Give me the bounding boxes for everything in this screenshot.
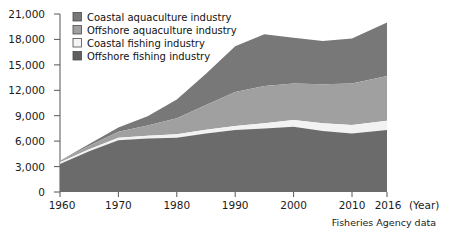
x-axis xyxy=(60,192,387,197)
x-axis-unit-label: (Year) xyxy=(409,199,439,211)
legend-item-offshore-aquaculture: Offshore aquaculture industry xyxy=(73,25,237,36)
y-tick-label: 0 xyxy=(38,186,45,198)
y-tick-label: 21,000 xyxy=(8,8,45,20)
y-axis-labels: 21,000 18,000 15,000 12,000 9,000 6,000 … xyxy=(8,8,45,198)
legend-item-coastal-aquaculture: Coastal aquaculture industry xyxy=(73,12,232,23)
legend-label: Coastal aquaculture industry xyxy=(87,12,232,23)
source-note: Fisheries Agency data xyxy=(332,217,436,228)
x-tick-label: 1960 xyxy=(49,199,76,211)
legend-item-offshore-fishing: Offshore fishing industry xyxy=(73,51,210,62)
chart-container: 21,000 18,000 15,000 12,000 9,000 6,000 … xyxy=(0,0,449,233)
y-axis xyxy=(54,14,60,192)
legend-label: Offshore fishing industry xyxy=(87,51,210,62)
x-tick-label: 1990 xyxy=(222,199,249,211)
legend-swatch xyxy=(73,26,82,35)
x-tick-label: 2016 xyxy=(375,199,402,211)
legend-swatch xyxy=(73,39,82,48)
legend-swatch xyxy=(73,13,82,22)
x-axis-labels: 1960 1970 1980 1990 2000 2010 2016 (Year… xyxy=(49,199,440,211)
y-tick-label: 18,000 xyxy=(8,33,45,45)
x-tick-label: 1970 xyxy=(105,199,132,211)
x-tick-label: 2010 xyxy=(339,199,366,211)
legend-swatch xyxy=(73,52,82,61)
legend-label: Offshore aquaculture industry xyxy=(87,25,237,36)
stacked-area-chart: 21,000 18,000 15,000 12,000 9,000 6,000 … xyxy=(0,0,449,233)
chart-legend: Coastal aquaculture industry Offshore aq… xyxy=(73,12,237,62)
x-tick-label: 1980 xyxy=(163,199,190,211)
y-tick-label: 6,000 xyxy=(15,135,45,147)
y-tick-label: 3,000 xyxy=(15,161,45,173)
y-tick-label: 12,000 xyxy=(8,84,45,96)
legend-item-coastal-fishing: Coastal fishing industry xyxy=(73,38,205,49)
y-tick-label: 15,000 xyxy=(8,59,45,71)
x-tick-label: 2000 xyxy=(280,199,307,211)
y-tick-label: 9,000 xyxy=(15,110,45,122)
legend-label: Coastal fishing industry xyxy=(87,38,205,49)
